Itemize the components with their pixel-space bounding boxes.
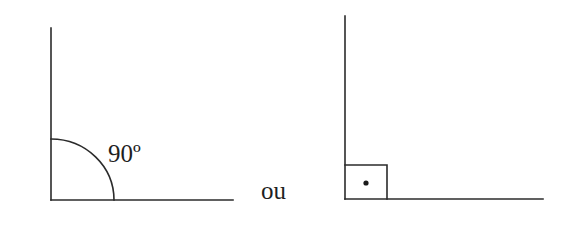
right-angle-arc-figure: 90º [51, 28, 233, 200]
angle-arc [51, 139, 114, 200]
right-angle-square-figure [345, 16, 543, 199]
right-angle-dot-icon [363, 180, 368, 185]
separator-text: ou [261, 177, 287, 204]
angle-label: 90º [108, 140, 141, 167]
right-angle-diagram: 90º ou [0, 0, 569, 232]
